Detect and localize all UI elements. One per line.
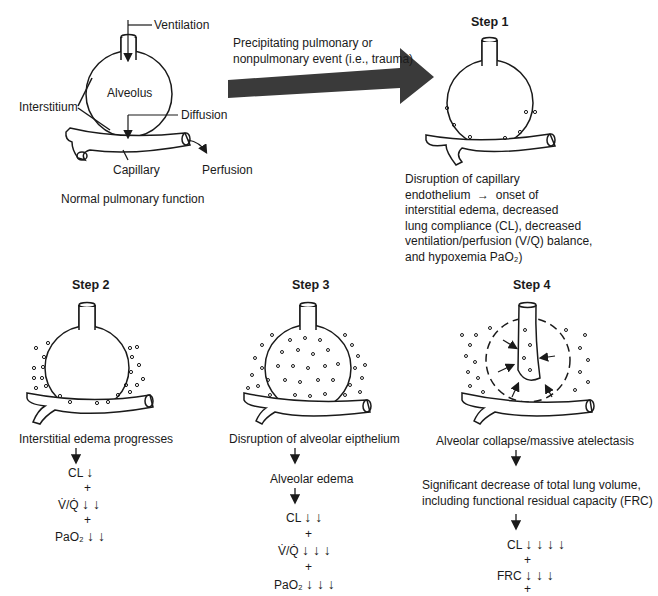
step-3-sub: Alveolar edema [270,472,353,486]
step-4-sub-1: Significant decrease of total lung volum… [422,478,641,492]
step-3-cl: CL ↓ ↓ [286,510,322,525]
step-3-vq: V̇/Q̇ ↓ ↓ ↓ [278,543,331,558]
step-2-caption: Interstitial edema progresses [19,432,173,446]
decrease-arrows: ↓ ↓ ↓ [302,542,331,558]
normal-caption: Normal pulmonary function [61,192,204,206]
decrease-arrows: ↓ ↓ [82,496,100,512]
step-2-pao2: PaO₂ ↓ ↓ [55,529,105,544]
step-2-cl: CL ↓ [68,465,93,480]
effect-label: PaO₂ [55,530,84,544]
plus-sign: + [84,481,91,495]
step-4-cl: CL ↓ ↓ ↓ ↓ [507,537,565,552]
decrease-arrows: ↓ ↓ ↓ [306,576,335,592]
decrease-arrows: ↓ [86,464,93,480]
effect-label: V̇/Q̇ [58,498,79,512]
step-1-line: Disruption of capillary [405,172,592,188]
step-2-title: Step 2 [72,278,110,292]
step-2-vq: V̇/Q̇ ↓ ↓ [58,497,100,512]
step-3-pao2: PaO₂ ↓ ↓ ↓ [274,577,335,592]
effect-label: V̇/Q̇ [278,544,299,558]
step-1-line: endothelium → onset of [405,188,592,204]
decrease-arrows: ↓ ↓ [304,509,322,525]
plus-sign: + [305,527,312,541]
step-4-frc: FRC ↓ ↓ ↓ [497,568,554,583]
step-1-title: Step 1 [471,15,509,29]
plus-sign: + [84,513,91,527]
decrease-arrows: ↓ ↓ ↓ ↓ [525,536,565,552]
step-3-title: Step 3 [292,278,330,292]
step-1-line: interstitial edema, decreased [405,203,592,219]
plus-sign: + [524,553,531,567]
step-4-sub-2: including functional residual capacity (… [422,494,653,508]
interstitium-label: Interstitium [19,100,78,114]
step-1-line: and hypoxemia PaO₂) [405,250,592,266]
decrease-arrows: ↓ ↓ [87,528,105,544]
effect-label: CL [68,466,83,480]
step-4-caption: Alveolar collapse/massive atelectasis [436,434,634,448]
decrease-arrows: ↓ ↓ ↓ [525,567,554,583]
event-line-1: Precipitating pulmonary or [233,36,372,50]
effect-label: CL [507,538,522,552]
effect-label: CL [286,511,301,525]
step-1-description: Disruption of capillary endothelium → on… [405,172,592,265]
capillary-label: Capillary [113,163,160,177]
ventilation-label: Ventilation [154,18,209,32]
step-4-title: Step 4 [513,278,551,292]
step-1-line: ventilation/perfusion (V/Q) balance, [405,234,592,250]
diffusion-label: Diffusion [181,108,227,122]
effect-label: PaO₂ [274,578,303,592]
alveolus-label: Alveolus [107,86,152,100]
step-3-caption: Disruption of alveolar eipthelium [229,432,400,446]
plus-sign: + [305,560,312,574]
step-1-line: lung compliance (CL), decreased [405,219,592,235]
event-line-2: nonpulmonary event (i.e., trauma) [233,52,413,66]
perfusion-label: Perfusion [202,163,253,177]
plus-sign: + [524,582,531,596]
effect-label: FRC [497,569,522,583]
